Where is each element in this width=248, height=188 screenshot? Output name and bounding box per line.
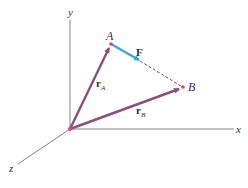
point-a-label: A [105, 29, 114, 43]
vector-f [111, 44, 139, 60]
point-b-label: B [188, 80, 196, 94]
z-axis [18, 129, 70, 164]
y-axis-label: y [67, 6, 73, 18]
line-ab-dashed [140, 61, 181, 86]
vector-diagram: y x z A B F r A r B [0, 0, 248, 188]
rb-label-sub: B [141, 111, 146, 119]
ra-label-sub: A [100, 84, 106, 92]
ra-label: r A [96, 77, 106, 92]
point-origin [68, 127, 72, 131]
x-axis-label: x [235, 123, 241, 135]
coordinate-axes: y x z [8, 6, 241, 174]
z-axis-label: z [8, 162, 14, 174]
rb-label: r B [136, 104, 146, 119]
force-label: F [136, 46, 143, 58]
point-b [181, 85, 185, 89]
